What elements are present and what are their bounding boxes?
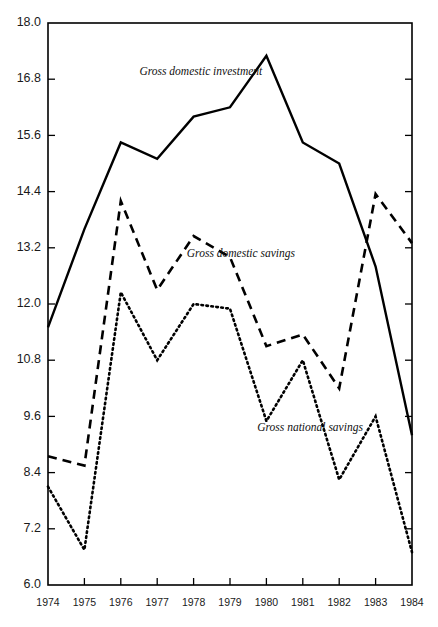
- x-axis-tick-labels: 1974197519761977197819791980198119821983…: [36, 596, 424, 608]
- series-lines: [48, 56, 412, 552]
- y-axis-tick-label: 15.6: [17, 128, 41, 142]
- series-annotation-label: Gross domestic savings: [187, 247, 296, 260]
- x-axis-tick-label: 1978: [182, 596, 206, 608]
- x-axis-tick-label: 1976: [109, 596, 133, 608]
- y-axis-tick-label: 6.0: [24, 577, 41, 591]
- x-axis-tick-label: 1975: [73, 596, 97, 608]
- y-axis-tick-label: 8.4: [24, 465, 41, 479]
- y-axis-tick-label: 13.2: [17, 240, 41, 254]
- y-axis-tick-label: 16.8: [17, 71, 41, 85]
- x-axis-tick-label: 1984: [400, 596, 424, 608]
- y-axis-tick-label: 14.4: [17, 184, 41, 198]
- chart-container: 18.016.815.614.413.212.010.89.68.47.26.0…: [0, 0, 438, 627]
- y-axis-tick-label: 10.8: [17, 352, 41, 366]
- x-axis-tick-label: 1983: [364, 596, 388, 608]
- x-axis-tick-label: 1979: [218, 596, 242, 608]
- line-chart: 18.016.815.614.413.212.010.89.68.47.26.0…: [0, 0, 438, 627]
- x-axis-tick-label: 1981: [291, 596, 315, 608]
- x-axis-tick-marks: [84, 578, 375, 585]
- x-axis-tick-label: 1980: [255, 596, 279, 608]
- y-axis-tick-label: 18.0: [17, 15, 41, 29]
- y-axis-tick-marks: [48, 79, 412, 529]
- x-axis-tick-label: 1982: [328, 596, 352, 608]
- y-axis-tick-label: 12.0: [17, 296, 41, 310]
- y-axis-tick-labels: 18.016.815.614.413.212.010.89.68.47.26.0: [17, 15, 41, 591]
- series-annotation-label: Gross domestic investment: [139, 65, 263, 77]
- y-axis-tick-label: 9.6: [24, 409, 41, 423]
- series-line-solid: [48, 56, 412, 435]
- series-annotation-label: Gross national savings: [257, 421, 363, 434]
- y-axis-tick-label: 7.2: [24, 521, 41, 535]
- x-axis-tick-label: 1977: [146, 596, 170, 608]
- x-axis-tick-label: 1974: [36, 596, 60, 608]
